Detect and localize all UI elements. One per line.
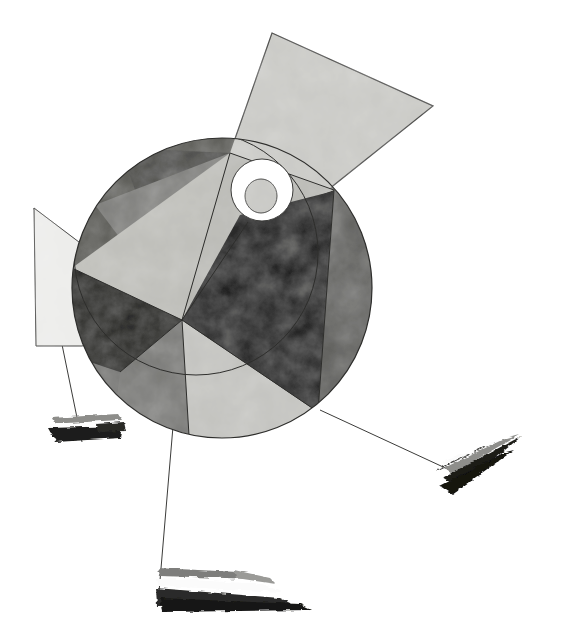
brush-mark-left <box>48 414 126 442</box>
artwork-title: Abstract Geometric Composition <box>4 5 119 14</box>
abstract-composition-svg: Abstract Geometric Composition Supremati… <box>0 0 564 643</box>
eye-pupil <box>245 179 277 213</box>
artwork-style: Suprematist / Constructivist abstraction <box>4 17 143 26</box>
artwork-medium: Gouache and ink on paper (grayscale repr… <box>4 29 187 38</box>
eye-group <box>231 159 293 221</box>
artwork-canvas: Abstract Geometric Composition Supremati… <box>0 0 564 643</box>
